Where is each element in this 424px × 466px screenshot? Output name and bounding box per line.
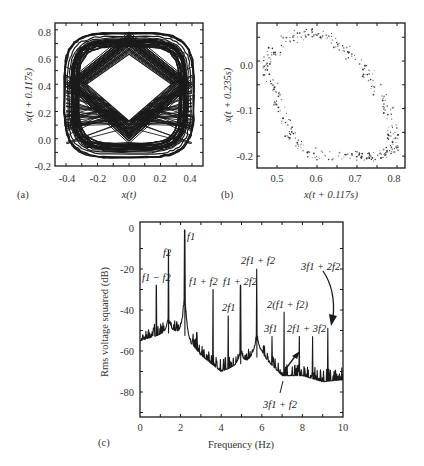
panel-b-xlabel: x(t + 0.117s) [303,189,358,201]
panel-a-xlabel: x(t) [121,189,137,201]
panel-c-ytick: -60 [120,346,134,357]
panel-c-ylabel: Rms voltage squared (dB) [99,267,111,377]
panel-b-xtick: 0.8 [387,173,400,184]
panel-c-xtick: 2 [178,422,183,433]
panel-a-letter: (a) [17,189,29,201]
poincare-section-points [262,28,399,162]
panel-c-xtick: 4 [219,422,225,433]
panel-c-xtick: 6 [259,422,264,433]
panel-a-xtick: 0.4 [183,173,197,184]
panel-a-xtick: 0.2 [153,173,166,184]
panel-a-ylabel: x(t + 0.117s) [23,68,35,123]
panel-c-letter: (c) [98,437,110,449]
panel-b-ytick: 0.0 [240,60,253,71]
panel-c-xtick: 0 [137,422,142,433]
panel-c-xlabel: Frequency (Hz) [208,439,275,451]
panel-c-ytick: -20 [120,264,134,275]
panel-a-ytick: 0.8 [38,27,51,38]
panel-c-ytick: -40 [120,305,134,316]
annotation-2f1-plus-f2: 2f1 + f2 [241,255,276,266]
annotation-f1-plus-2f2: f1 + 2f2 [223,276,258,287]
panel-c-ytick: 0 [129,223,134,234]
annotation-f2: f2 [163,247,172,258]
panel-a-ytick: 0.0 [38,135,51,146]
figure: -0.4 -0.2 0.0 0.2 0.4 -0.2 0.0 0.2 0.4 0… [0,0,424,466]
annotation-f1-minus-f2: f1 − f2 [142,272,171,283]
panel-c-xtick: 10 [338,422,349,433]
panel-b-xtick: 0.5 [270,173,283,184]
panel-b-ticks [257,23,405,168]
arrow-3f1-plus-2f2 [323,271,334,318]
panel-a-xtick: -0.2 [90,173,107,184]
panel-c: 0 2 4 6 8 10 0 -20 -40 -60 -80 Frequency… [98,222,348,451]
annotation-2-f1-plus-f2: 2(f1 + f2) [267,299,308,311]
panel-c-xtick: 8 [300,422,305,433]
panel-a-ytick: 0.4 [38,81,52,92]
annotation-2f1-plus-3f2: 2f1 + 3f2 [287,323,327,334]
panel-a-ytick: -0.2 [34,161,51,172]
panel-c-ytick: -80 [120,387,134,398]
arrowhead-icon [329,314,337,326]
panel-a-ytick: 0.2 [38,108,51,119]
panel-b-letter: (b) [221,189,234,201]
leader-3f1-plus-f2 [280,381,283,393]
panel-b-xtick: 0.7 [348,173,361,184]
panel-a: -0.4 -0.2 0.0 0.2 0.4 -0.2 0.0 0.2 0.4 0… [17,23,203,201]
panel-b-xtick: 0.6 [309,173,322,184]
panel-a-xtick: 0.0 [122,173,135,184]
annotation-2f1: 2f1 [222,302,235,313]
annotation-3f1-plus-f2: 3f1 + f2 [262,399,298,410]
annotation-f1: f1 [187,231,195,242]
phase-portrait-trajectory [55,23,203,166]
panel-b-ytick: -0.1 [236,105,253,116]
annotation-3f1: 3f1 [263,323,277,334]
panel-b: 0.5 0.6 0.7 0.8 -0.2 -0.1 0.0 x(t + 0.11… [221,23,405,201]
panel-b-frame [257,23,405,168]
panel-b-ylabel: x(t + 0.235s) [222,67,234,123]
panel-a-xtick: -0.4 [59,173,76,184]
panel-b-ytick: -0.2 [236,151,253,162]
annotation-f1-plus-f2: f1 + f2 [189,276,218,287]
annotation-3f1-plus-2f2: 3f1 + 2f2 [300,261,341,272]
panel-a-ytick: 0.6 [38,54,51,65]
